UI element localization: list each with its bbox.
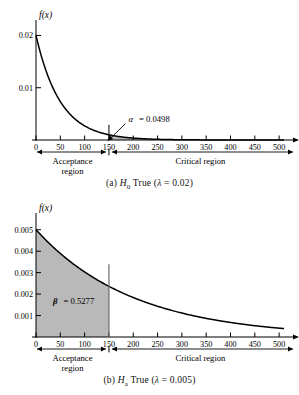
beta-symbol-b: β — [52, 296, 58, 306]
alpha-annotation-a: α = 0.0498 — [128, 114, 169, 124]
x-tick-label: 500 — [273, 340, 285, 349]
x-tick-label: 450 — [249, 340, 261, 349]
x-tick-label: 300 — [176, 143, 188, 152]
y-axis-tick-labels-a: 0.010.02 — [19, 31, 33, 92]
figure-panel-a: 050100150200250300350400450500 0.010.02 … — [0, 0, 299, 198]
x-tick-label: 0 — [34, 340, 38, 349]
x-tick-label: 250 — [151, 340, 163, 349]
exponential-pdf-chart-a: 050100150200250300350400450500 0.010.02 … — [0, 0, 299, 178]
caption-a-hypothesis: H — [120, 178, 127, 188]
caption-b-hypothesis: H — [118, 375, 125, 385]
alpha-value-a: = 0.0498 — [139, 114, 170, 124]
caption-a-hypothesis-subscript: 0 — [127, 183, 131, 191]
critical-region-label-b: Critical region — [176, 353, 227, 363]
caption-a-value: = 0.02) — [164, 178, 193, 188]
caption-b-rest: True ( — [130, 375, 154, 385]
y-tick-label: 0.01 — [19, 84, 33, 93]
density-curve-a — [36, 35, 284, 140]
caption-a-rest: True ( — [133, 178, 157, 188]
x-tick-label: 200 — [127, 340, 139, 349]
x-tick-label: 250 — [151, 143, 163, 152]
x-tick-label: 50 — [56, 143, 64, 152]
x-axis-tick-labels-a: 050100150200250300350400450500 — [34, 143, 285, 152]
x-tick-label: 50 — [56, 340, 64, 349]
figure-caption-a: (a) H0 True (λ = 0.02) — [0, 178, 299, 191]
y-tick-label: 0.005 — [15, 226, 33, 235]
exponential-pdf-chart-b: 050100150200250300350400450500 0.0010.00… — [0, 197, 299, 395]
acceptance-region-shading-b — [36, 230, 109, 337]
x-tick-label: 0 — [34, 143, 38, 152]
x-tick-label: 300 — [176, 340, 188, 349]
y-axis-tick-labels-b: 0.0010.0020.0030.0040.005 — [15, 226, 33, 321]
y-tick-label: 0.02 — [19, 31, 33, 40]
y-axis-label-a: f(x) — [39, 10, 52, 21]
caption-b-prefix: (b) — [103, 375, 115, 385]
acceptance-region-label-b-line1: Acceptance — [52, 353, 92, 363]
x-axis-arrowhead-b — [293, 334, 299, 339]
x-tick-label: 400 — [224, 340, 236, 349]
x-tick-label: 350 — [200, 340, 212, 349]
y-tick-label: 0.004 — [15, 247, 33, 256]
x-axis-tick-labels-b: 050100150200250300350400450500 — [34, 340, 285, 349]
x-tick-label: 200 — [127, 143, 139, 152]
caption-b-hypothesis-subscript: a — [125, 380, 128, 388]
caption-b-lambda: λ — [155, 375, 159, 385]
x-tick-label: 350 — [200, 143, 212, 152]
caption-b-value: = 0.005) — [162, 375, 196, 385]
critical-region-label-a: Critical region — [176, 156, 227, 166]
x-axis-arrowhead-a — [293, 137, 299, 142]
beta-value-b: = 0.5277 — [64, 296, 95, 306]
x-tick-label: 400 — [224, 143, 236, 152]
figure-panel-b: 050100150200250300350400450500 0.0010.00… — [0, 197, 299, 395]
acceptance-region-label-a-line2: region — [61, 166, 84, 176]
x-tick-label: 450 — [249, 143, 261, 152]
x-tick-label: 100 — [78, 340, 90, 349]
x-tick-label: 500 — [273, 143, 285, 152]
y-tick-label: 0.002 — [15, 290, 33, 299]
caption-a-lambda: λ — [157, 178, 161, 188]
alpha-symbol-a: α — [128, 114, 133, 124]
y-tick-label: 0.001 — [15, 312, 33, 321]
figure-caption-b: (b) Ha True (λ = 0.005) — [0, 375, 299, 388]
acceptance-region-label-a-line1: Acceptance — [52, 156, 92, 166]
beta-annotation-b: β = 0.5277 — [52, 296, 95, 306]
acceptance-region-label-b-line2: region — [61, 363, 84, 373]
x-tick-label: 100 — [78, 143, 90, 152]
y-tick-label: 0.003 — [15, 269, 33, 278]
caption-a-prefix: (a) — [106, 178, 117, 188]
y-axis-label-b: f(x) — [39, 203, 52, 214]
